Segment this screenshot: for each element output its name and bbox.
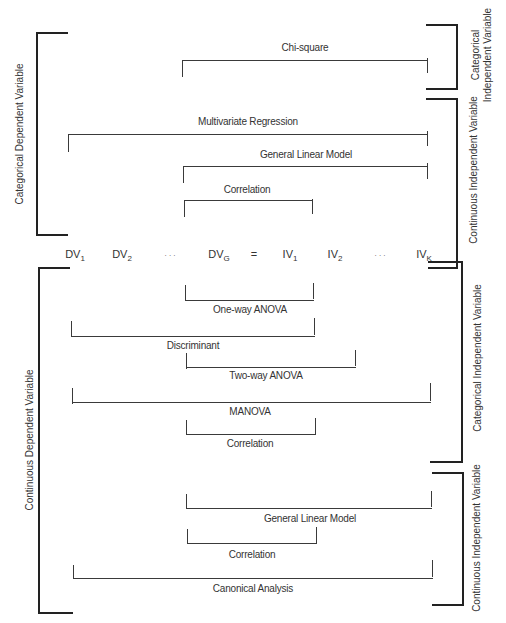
- bracket-line: [432, 560, 433, 577]
- method-label: General Linear Model: [264, 513, 356, 524]
- bracket-line: [38, 612, 73, 614]
- variable-dv-1: DV1: [65, 248, 85, 263]
- bracket-line: [71, 321, 72, 337]
- bracket-line: [355, 350, 356, 366]
- variable-subscript: 2: [338, 254, 342, 263]
- bracket-line: [428, 261, 463, 263]
- method-label: Discriminant: [167, 340, 220, 351]
- variable-name: IV: [416, 248, 426, 260]
- method-label: Multivariate Regression: [198, 116, 298, 127]
- bracket-line: [432, 472, 464, 474]
- method-label: Correlation: [227, 438, 274, 449]
- bracket-line: [427, 131, 428, 146]
- bracket-line: [182, 60, 183, 77]
- bracket-line: [430, 461, 463, 463]
- bracket-line: [38, 267, 40, 614]
- bracket-line: [430, 383, 431, 401]
- variable-iv-k: IVK: [416, 248, 432, 263]
- bracket-line: [183, 166, 428, 167]
- bracket-line: [456, 98, 458, 269]
- ellipsis-dv: . . .: [164, 249, 175, 258]
- variable-subscript: G: [224, 254, 230, 263]
- variable-name: DV: [208, 248, 223, 260]
- method-label: Correlation: [229, 549, 276, 560]
- bracket-line: [312, 199, 313, 214]
- bracket-line: [187, 543, 317, 544]
- method-label: MANOVA: [229, 406, 270, 417]
- variable-iv-1: IV1: [283, 248, 298, 263]
- variable-name: DV: [112, 248, 127, 260]
- bracket-line: [462, 472, 464, 606]
- bracket-line: [36, 32, 68, 34]
- bracket-line: [183, 166, 184, 183]
- bracket-line: [461, 261, 463, 463]
- bracket-line: [186, 367, 356, 368]
- bracket-line: [427, 163, 428, 179]
- bracket-line: [71, 336, 315, 337]
- bracket-line: [456, 24, 458, 90]
- bracket-line: [68, 134, 428, 135]
- method-label: Two-way ANOVA: [229, 370, 302, 381]
- variable-dv-g: DVG: [208, 248, 230, 263]
- bracket-line: [426, 88, 458, 90]
- variable-name: DV: [65, 248, 80, 260]
- bracket-line: [73, 565, 74, 579]
- method-label: Correlation: [224, 184, 271, 195]
- method-label: General Linear Model: [260, 149, 352, 160]
- label-categorical-independent-variable-bottom: Categorical Independent Variable: [472, 284, 484, 432]
- bracket-line: [184, 200, 185, 217]
- bracket-line: [315, 418, 316, 434]
- method-label: Chi-square: [282, 42, 329, 53]
- bracket-line: [426, 24, 458, 26]
- bracket-line: [426, 98, 458, 100]
- variable-dv-2: DV2: [112, 248, 132, 263]
- variable-subscript: 1: [293, 254, 297, 263]
- bracket-line: [313, 283, 314, 299]
- bracket-line: [314, 318, 315, 335]
- bracket-line: [316, 527, 317, 543]
- method-label: One-way ANOVA: [213, 304, 287, 315]
- bracket-line: [431, 491, 432, 507]
- variable-iv-2: IV2: [328, 248, 343, 263]
- label-line: Independent Variable: [482, 8, 494, 102]
- bracket-line: [428, 267, 458, 269]
- variable-name: IV: [283, 248, 293, 260]
- bracket-line: [184, 200, 313, 201]
- bracket-line: [185, 285, 186, 301]
- method-label: Canonical Analysis: [213, 583, 293, 594]
- ellipsis-iv: . . .: [374, 249, 385, 258]
- variable-subscript: 1: [80, 254, 84, 263]
- label-continuous-independent-variable-top: Continuous Independent Variable: [468, 96, 480, 244]
- variable-subscript: K: [427, 254, 432, 263]
- bracket-line: [36, 234, 68, 236]
- bracket-line: [36, 32, 38, 236]
- variable-name: IV: [328, 248, 338, 260]
- label-line: Categorical: [470, 8, 482, 102]
- variable-subscript: 2: [127, 254, 131, 263]
- bracket-line: [185, 300, 314, 301]
- label-categorical-dependent-variable: Categorical Dependent Variable: [14, 63, 26, 204]
- label-continuous-independent-variable-bottom: Continuous Independent Variable: [471, 464, 483, 612]
- bracket-line: [427, 58, 428, 73]
- bracket-line: [182, 60, 428, 61]
- bracket-line: [68, 134, 69, 152]
- bracket-line: [38, 267, 70, 269]
- bracket-line: [186, 420, 187, 435]
- bracket-line: [186, 434, 316, 435]
- bracket-line: [72, 402, 431, 403]
- bracket-line: [432, 604, 464, 606]
- bracket-line: [186, 508, 432, 509]
- equals-sign: =: [251, 248, 257, 260]
- label-continuous-dependent-variable: Continuous Dependent Variable: [24, 369, 36, 510]
- bracket-line: [187, 529, 188, 544]
- bracket-line: [186, 494, 187, 509]
- label-categorical-independent-variable-top: Categorical Independent Variable: [470, 8, 494, 102]
- bracket-line: [73, 578, 433, 579]
